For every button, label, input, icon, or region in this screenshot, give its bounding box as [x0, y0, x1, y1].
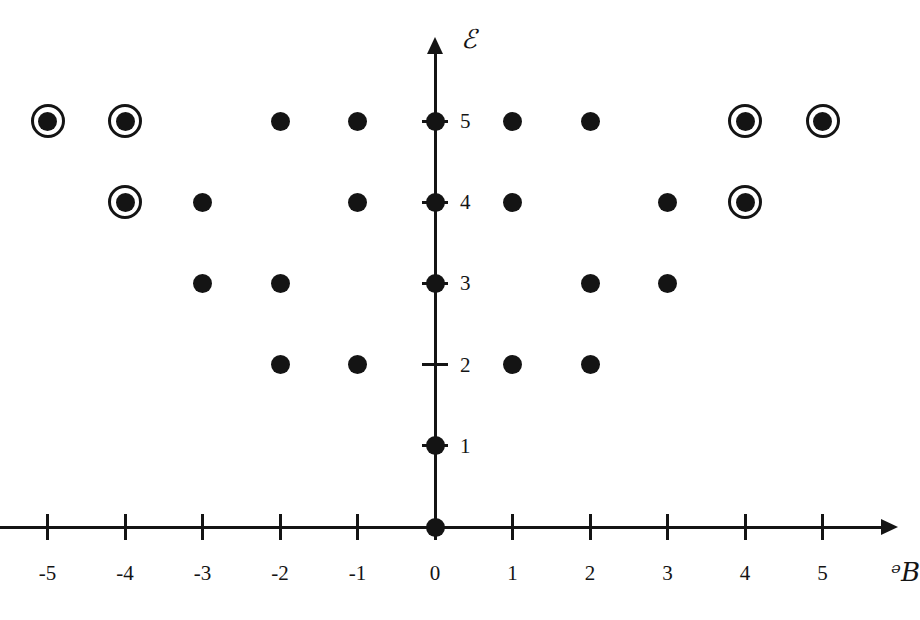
y-axis-arrow-icon: [427, 37, 443, 54]
data-point: [271, 355, 290, 374]
data-point: [348, 112, 367, 131]
x-axis-title: ᵊB: [891, 559, 920, 585]
data-point: [116, 193, 135, 212]
x-axis-tick-label: 0: [411, 563, 459, 584]
x-axis-tick: [821, 514, 824, 540]
x-axis-tick-label: -1: [334, 563, 382, 584]
x-axis-tick-label: 2: [566, 563, 614, 584]
data-point: [658, 193, 677, 212]
data-point: [813, 112, 832, 131]
x-axis-tick: [201, 514, 204, 540]
data-point: [658, 274, 677, 293]
y-axis-tick-label: 1: [460, 436, 490, 457]
data-point: [503, 193, 522, 212]
data-point: [271, 274, 290, 293]
data-point: [581, 112, 600, 131]
x-axis-tick-label: -3: [179, 563, 227, 584]
x-axis-tick: [744, 514, 747, 540]
data-point: [581, 274, 600, 293]
x-axis-tick: [589, 514, 592, 540]
data-point: [193, 193, 212, 212]
x-axis-tick-label: -4: [101, 563, 149, 584]
data-point: [503, 355, 522, 374]
x-axis-tick-label: -5: [24, 563, 72, 584]
x-axis-tick: [511, 514, 514, 540]
x-axis-tick-label: 1: [489, 563, 537, 584]
data-point: [426, 112, 445, 131]
data-point: [426, 518, 445, 537]
data-point: [116, 112, 135, 131]
x-axis-tick-label: 4: [721, 563, 769, 584]
data-point: [348, 193, 367, 212]
data-point: [426, 436, 445, 455]
y-axis-title: ℰ: [461, 26, 477, 52]
x-axis-tick: [124, 514, 127, 540]
y-axis-tick-label: 3: [460, 273, 490, 294]
data-point: [426, 274, 445, 293]
x-axis-tick-label: -2: [256, 563, 304, 584]
y-axis-tick-label: 5: [460, 111, 490, 132]
x-axis-tick: [356, 514, 359, 540]
x-axis-tick: [46, 514, 49, 540]
data-point: [348, 355, 367, 374]
x-axis-arrow-icon: [881, 519, 898, 535]
data-point: [193, 274, 212, 293]
y-axis-tick-label: 2: [460, 355, 490, 376]
data-point: [271, 112, 290, 131]
data-point: [426, 193, 445, 212]
y-axis-tick: [422, 363, 448, 366]
data-point: [736, 193, 755, 212]
data-point: [581, 355, 600, 374]
y-axis-tick-label: 4: [460, 192, 490, 213]
x-axis-tick: [666, 514, 669, 540]
x-axis-tick: [279, 514, 282, 540]
data-point: [736, 112, 755, 131]
x-axis-tick-label: 3: [644, 563, 692, 584]
x-axis-tick-label: 5: [799, 563, 847, 584]
data-point: [503, 112, 522, 131]
data-point: [38, 112, 57, 131]
